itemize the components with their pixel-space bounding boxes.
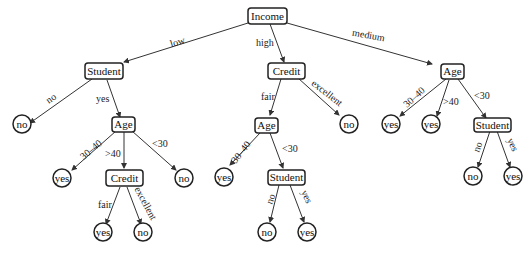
edge-label-gt40: >40 — [443, 96, 459, 107]
node-credit: Credit — [106, 170, 143, 186]
leaf-yes: yes — [422, 115, 440, 133]
node-student: Student — [474, 118, 511, 132]
edge-label-excellent: excellent — [132, 185, 159, 222]
node-age: Age — [441, 64, 464, 79]
edge-label-no: no — [264, 192, 278, 205]
edge-label-30-40: 30–40 — [229, 139, 253, 165]
svg-text:Income: Income — [251, 10, 284, 22]
svg-text:yes: yes — [217, 171, 232, 183]
leaf-no: no — [340, 115, 358, 133]
edge-label-fair: fair — [98, 199, 113, 210]
edge-label-lt30: <30 — [152, 138, 168, 149]
svg-text:yes: yes — [55, 172, 70, 184]
svg-text:Student: Student — [270, 171, 304, 183]
edge-label-no: no — [471, 140, 485, 153]
leaf-yes: yes — [215, 168, 233, 186]
svg-text:yes: yes — [384, 118, 399, 130]
leaf-no: no — [13, 115, 31, 133]
edge-label-medium: medium — [352, 27, 386, 44]
edge-label-yes: yes — [505, 136, 521, 153]
node-credit: Credit — [268, 63, 305, 79]
edge-label-high: high — [256, 37, 274, 48]
svg-text:Credit: Credit — [111, 172, 139, 184]
svg-text:Age: Age — [257, 119, 275, 131]
svg-text:yes: yes — [506, 170, 521, 182]
leaf-no: no — [134, 223, 152, 241]
leaf-no: no — [258, 223, 276, 241]
svg-text:no: no — [138, 226, 150, 238]
svg-text:Age: Age — [114, 118, 132, 130]
svg-text:Credit: Credit — [273, 65, 301, 77]
edge-label-yes: yes — [96, 93, 109, 104]
svg-text:Student: Student — [87, 65, 121, 77]
edge-label-30-40: 30–40 — [78, 137, 104, 161]
svg-text:Age: Age — [443, 65, 461, 77]
svg-text:no: no — [468, 170, 480, 182]
leaf-no: no — [175, 169, 193, 187]
edge-label-yes: yes — [299, 188, 315, 205]
edge-label-gt40: >40 — [105, 148, 121, 159]
edge-label-no: no — [44, 91, 59, 106]
node-income: Income — [248, 8, 287, 24]
svg-text:no: no — [179, 172, 191, 184]
leaf-yes: yes — [504, 167, 522, 185]
svg-text:no: no — [344, 118, 356, 130]
svg-text:no: no — [262, 226, 274, 238]
leaf-yes: yes — [53, 169, 71, 187]
leaf-yes: yes — [94, 223, 112, 241]
node-age: Age — [255, 118, 278, 133]
svg-text:Student: Student — [476, 119, 510, 131]
edge-label-low: low — [169, 34, 187, 49]
decision-tree-diagram: low high medium no yes 30–40 >40 <30 fai… — [0, 0, 531, 253]
svg-text:yes: yes — [96, 226, 111, 238]
edge-label-fair: fair — [261, 91, 276, 102]
leaf-yes: yes — [382, 115, 400, 133]
node-age: Age — [112, 117, 135, 132]
leaf-yes: yes — [298, 223, 316, 241]
edge-label-lt30: <30 — [282, 143, 298, 154]
edge-label-lt30: <30 — [474, 90, 490, 101]
svg-text:yes: yes — [424, 118, 439, 130]
svg-text:no: no — [17, 118, 29, 130]
node-student: Student — [268, 170, 305, 185]
node-student: Student — [85, 63, 123, 79]
leaf-no: no — [464, 167, 482, 185]
svg-text:yes: yes — [300, 226, 315, 238]
